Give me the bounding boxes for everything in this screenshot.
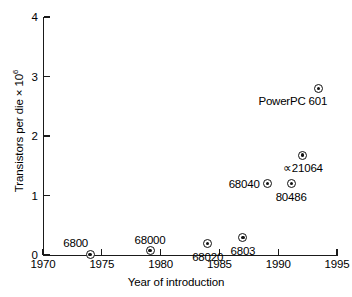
data-point-marker[interactable] [146,246,155,255]
data-point-marker[interactable] [263,179,272,188]
x-axis-tick-label: 1995 [325,258,350,271]
y-axis-tick [44,195,50,196]
x-axis-tick [278,249,279,255]
x-axis-tick-label: 1990 [266,258,291,271]
y-axis-tick-label: 0 [26,249,38,262]
data-point-marker[interactable] [203,239,212,248]
y-axis-tick-label: 4 [26,11,38,24]
data-point-marker[interactable] [238,233,247,242]
y-axis-tick-label: 2 [26,130,38,143]
y-axis-tick [44,16,50,17]
data-point-label: 6800 [63,237,88,250]
data-point-label: 6803 [231,245,256,258]
data-point-label: 80486 [276,191,307,204]
y-axis-title: Transistors per die × 106 [13,46,25,216]
x-axis-tick [101,249,102,255]
y-axis-tick-label: 3 [26,70,38,83]
data-point-marker[interactable] [86,250,95,259]
data-point-label: ∝21064 [283,162,323,175]
x-axis-tick [160,249,161,255]
data-point-label: PowerPC 601 [258,95,327,108]
data-point-marker[interactable] [287,179,296,188]
y-axis-tick [44,76,50,77]
data-point-marker[interactable] [298,151,307,160]
y-axis-tick-label: 1 [26,189,38,202]
data-point-label: 68020 [192,251,223,264]
y-axis-title-base: Transistors per die × 10 [13,74,25,192]
y-axis-title-exponent: 6 [11,70,20,74]
y-axis-tick [44,254,50,255]
scatter-chart-figure: 1970197519801985199019950123468006800068… [0,0,352,297]
y-axis-tick [44,135,50,136]
x-axis-tick-label: 1980 [148,258,173,271]
data-point-label: 68000 [135,234,166,247]
data-point-label: 68040 [229,178,260,191]
data-point-marker[interactable] [314,84,323,93]
x-axis-tick [336,249,337,255]
x-axis-tick-label: 1975 [89,258,114,271]
x-axis-title: Year of introduction [0,276,352,288]
